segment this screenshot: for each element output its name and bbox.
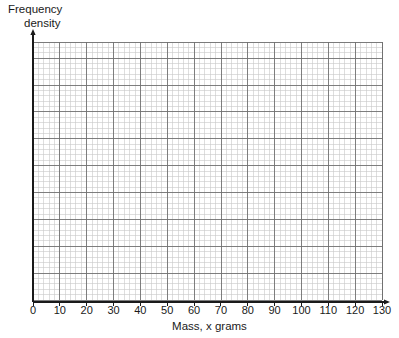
x-axis-tick-label: 70 — [215, 304, 227, 316]
x-axis-tick-label: 10 — [54, 304, 66, 316]
x-axis-tick-label: 20 — [81, 304, 93, 316]
grid-minor-lines — [33, 42, 382, 300]
x-axis-tick-label: 40 — [134, 304, 146, 316]
x-axis-title: Mass, x grams — [0, 320, 399, 332]
graph-figure: Frequency density 0102030405060708090100… — [0, 0, 399, 338]
plot-area: 0102030405060708090100110120130 — [0, 0, 399, 338]
x-axis-tick-label: 80 — [242, 304, 254, 316]
x-axis-tick-labels: 0102030405060708090100110120130 — [30, 304, 391, 316]
x-axis-tick-label: 100 — [292, 304, 310, 316]
y-axis-arrowhead — [30, 29, 35, 35]
x-axis-tick-label: 110 — [320, 304, 338, 316]
x-axis-title-text: Mass, x grams — [172, 320, 247, 332]
x-axis-tick-label: 30 — [107, 304, 119, 316]
x-axis-tick-label: 0 — [30, 304, 36, 316]
x-axis-tick-label: 50 — [161, 304, 173, 316]
x-axis-tick-label: 120 — [346, 304, 364, 316]
x-axis-tick-label: 90 — [268, 304, 280, 316]
x-axis-tick-label: 60 — [188, 304, 200, 316]
x-axis-tick-label: 130 — [373, 304, 391, 316]
